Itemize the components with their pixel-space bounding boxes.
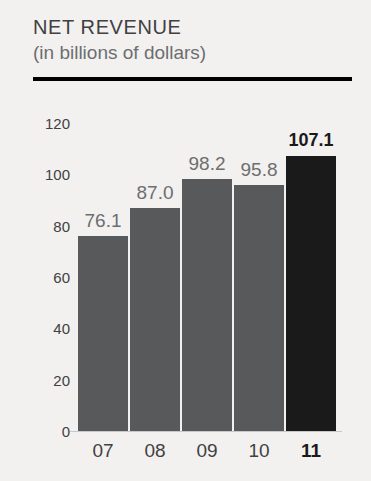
bar-value-label: 107.1 <box>288 131 333 150</box>
x-axis-baseline <box>70 431 342 432</box>
net-revenue-chart-card: NET REVENUE (in billions of dollars) 020… <box>0 0 371 481</box>
bar-value-label: 76.1 <box>85 211 122 230</box>
bar-value-label: 95.8 <box>241 160 278 179</box>
x-axis-tick-label: 10 <box>234 440 284 462</box>
bar-series: 76.187.098.295.8107.1 <box>78 123 338 431</box>
y-axis-tick-label: 100 <box>24 167 70 182</box>
x-axis-tick-label: 09 <box>182 440 232 462</box>
bar-column[interactable]: 98.2 <box>182 123 232 431</box>
plot-area: 020406080100120 76.187.098.295.8107.1 07… <box>0 0 371 481</box>
bar-value-label: 98.2 <box>189 154 226 173</box>
bar[interactable] <box>182 179 232 431</box>
bar-column[interactable]: 76.1 <box>78 123 128 431</box>
y-axis-tick-label: 60 <box>24 270 70 285</box>
y-axis-tick-label: 120 <box>24 116 70 131</box>
bar-column[interactable]: 87.0 <box>130 123 180 431</box>
x-axis: 0708091011 <box>78 440 338 464</box>
y-axis-tick-label: 0 <box>24 424 70 439</box>
y-axis-tick-label: 80 <box>24 218 70 233</box>
x-axis-tick-label: 08 <box>130 440 180 462</box>
bar-value-label: 87.0 <box>137 183 174 202</box>
bar-column[interactable]: 107.1 <box>286 123 336 431</box>
bar[interactable] <box>130 208 180 431</box>
y-axis-tick-label: 20 <box>24 372 70 387</box>
bar[interactable] <box>286 156 336 431</box>
x-axis-tick-label: 07 <box>78 440 128 462</box>
y-axis-tick-label: 40 <box>24 321 70 336</box>
bar-column[interactable]: 95.8 <box>234 123 284 431</box>
x-axis-tick-label: 11 <box>286 440 336 462</box>
bar[interactable] <box>78 236 128 431</box>
bar[interactable] <box>234 185 284 431</box>
